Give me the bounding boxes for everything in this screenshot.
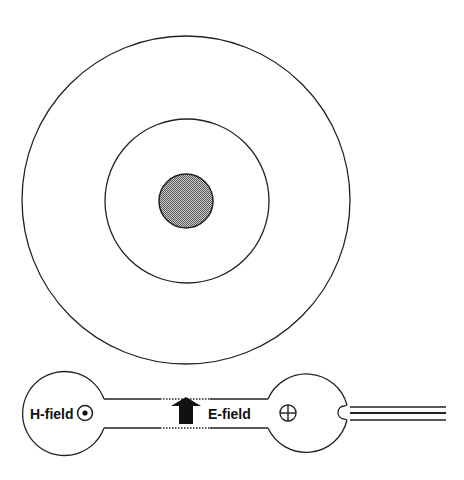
out-of-page-icon xyxy=(78,406,93,421)
feedline xyxy=(350,407,446,420)
diagram-canvas: H-field E-field xyxy=(0,0,464,480)
into-page-icon xyxy=(280,405,296,421)
core-disc xyxy=(159,174,213,228)
e-field-label: E-field xyxy=(208,406,251,422)
up-arrow-icon xyxy=(171,397,201,424)
feed-notch xyxy=(338,405,347,420)
h-field-label: H-field xyxy=(30,406,74,422)
